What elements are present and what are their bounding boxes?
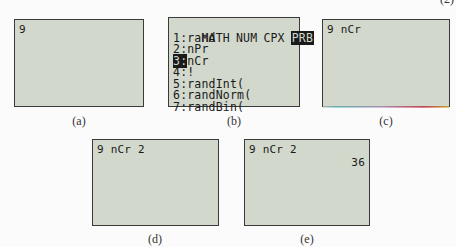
menu-item-label: randBin( xyxy=(187,100,244,114)
screen-e-line-1: 9 nCr 2 xyxy=(249,144,365,155)
tab-num[interactable]: NUM xyxy=(236,31,257,45)
caption-b: (b) xyxy=(219,114,249,129)
calculator-screen-a: 9 xyxy=(14,19,144,107)
calculator-screen-b: MATHNUMCPXPRB 1:rand 2:nPr 3:nCr 4:! 5:r… xyxy=(168,17,300,107)
caption-d: (d) xyxy=(140,232,170,247)
caption-e: (e) xyxy=(292,232,322,247)
tab-prb[interactable]: PRB xyxy=(291,31,314,45)
screen-e-result: 36 xyxy=(249,157,365,168)
screen-c-line-1: 9 nCr xyxy=(327,24,445,35)
calculator-screen-e: 9 nCr 2 36 xyxy=(244,139,370,226)
screen-a-line-1: 9 xyxy=(19,24,139,35)
screen-d-line-1: 9 nCr 2 xyxy=(97,144,214,155)
screen-edge-artifact xyxy=(323,106,449,108)
figure-number: (2) xyxy=(440,0,454,7)
caption-a: (a) xyxy=(64,114,94,129)
menu-item-randbin[interactable]: 7:randBin( xyxy=(173,102,295,114)
menu-item-number: 7 xyxy=(173,100,180,114)
caption-c: (c) xyxy=(371,114,401,129)
tab-cpx[interactable]: CPX xyxy=(263,31,284,45)
calculator-screen-d: 9 nCr 2 xyxy=(92,139,219,226)
calculator-screen-c: 9 nCr xyxy=(322,19,450,107)
